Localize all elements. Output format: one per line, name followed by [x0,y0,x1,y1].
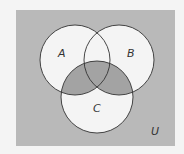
label-u: U [151,125,159,138]
label-b: B [127,47,135,60]
venn-diagram: A B C U [0,0,184,154]
label-c: C [93,102,101,115]
label-a: A [57,47,66,60]
